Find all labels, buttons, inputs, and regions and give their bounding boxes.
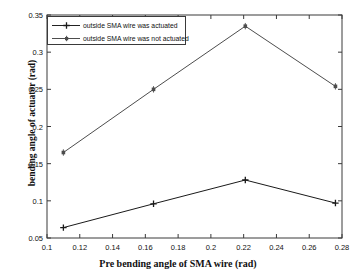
x-tick-label: 0.2 <box>206 243 216 252</box>
legend-marker-plus-icon <box>52 20 80 31</box>
legend-item-not-actuated: outside SMA wire was not actuated <box>48 32 185 45</box>
y-tick-label: 0.05 <box>15 234 43 243</box>
legend-label: outside SMA wire was not actuated <box>83 35 189 42</box>
x-tick-label: 0.26 <box>302 243 317 252</box>
chart-legend: outside SMA wire was actuated outside SM… <box>47 16 186 45</box>
legend-item-actuated: outside SMA wire was actuated <box>48 19 185 32</box>
x-tick-label: 0.16 <box>138 243 153 252</box>
x-tick-label: 0.18 <box>171 243 186 252</box>
legend-label: outside SMA wire was actuated <box>83 22 177 29</box>
x-tick-label: 0.12 <box>72 243 87 252</box>
legend-marker-square-icon <box>52 33 80 44</box>
x-tick-label: 0.24 <box>269 243 284 252</box>
plot-frame <box>47 15 342 238</box>
x-tick-label: 0.1 <box>42 243 52 252</box>
x-tick-label: 0.14 <box>105 243 120 252</box>
x-tick-label: 0.28 <box>335 243 350 252</box>
x-axis-title: Pre bending angle of SMA wire (rad) <box>0 258 356 269</box>
y-axis-title: bending angle of actuator (rad) <box>27 16 37 231</box>
x-tick-label: 0.22 <box>236 243 251 252</box>
chart-figure: 0.10.120.140.160.180.20.220.240.260.28 0… <box>0 0 356 278</box>
